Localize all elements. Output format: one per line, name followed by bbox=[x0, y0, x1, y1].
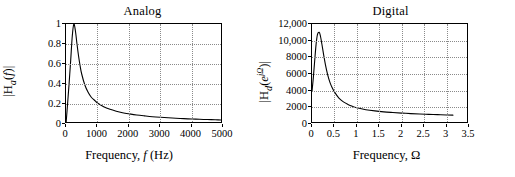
gridline-vertical bbox=[192, 24, 193, 122]
x-tick-label: 0 bbox=[308, 128, 313, 139]
chart-title-digital: Digital bbox=[308, 4, 473, 19]
x-tick-label: 0.5 bbox=[327, 128, 340, 139]
x-axis-title-digital: Frequency, Ω bbox=[258, 148, 515, 163]
y-tick-label: 10,000 bbox=[263, 34, 307, 45]
x-tick-label: 3000 bbox=[149, 128, 170, 139]
y-tick-mark bbox=[308, 90, 311, 91]
y-tick-label: 0.8 bbox=[17, 38, 61, 49]
y-tick-label: 0.4 bbox=[17, 78, 61, 89]
gridline-vertical bbox=[424, 24, 425, 122]
y-tick-mark bbox=[308, 23, 311, 24]
x-tick-mark bbox=[356, 124, 357, 127]
y-axis-title-close-digital: )| bbox=[257, 61, 271, 68]
y-tick-mark bbox=[308, 40, 311, 41]
y-axis-title-sub-digital: d bbox=[263, 86, 274, 91]
x-tick-label: 1000 bbox=[86, 128, 107, 139]
gridline-vertical bbox=[379, 24, 380, 122]
y-tick-mark bbox=[62, 123, 65, 124]
gridline-vertical bbox=[334, 24, 335, 122]
y-tick-mark bbox=[308, 73, 311, 74]
y-axis-title-mid-digital: ( bbox=[257, 82, 271, 86]
curve-analog bbox=[66, 24, 222, 123]
gridline-vertical bbox=[160, 24, 161, 122]
y-axis-title-open-analog: |H bbox=[1, 85, 15, 97]
x-tick-mark bbox=[159, 124, 160, 127]
y-tick-mark bbox=[62, 43, 65, 44]
panel-analog: Analog 01000200030004000500000.20.40.60.… bbox=[0, 0, 258, 177]
gridline-horizontal bbox=[66, 84, 221, 85]
x-tick-mark bbox=[96, 124, 97, 127]
response-curve bbox=[66, 24, 222, 123]
plot-area-analog bbox=[65, 23, 222, 123]
gridline-horizontal bbox=[66, 104, 221, 105]
x-tick-mark bbox=[311, 124, 312, 127]
gridline-vertical bbox=[129, 24, 130, 122]
x-tick-label: 5000 bbox=[212, 128, 233, 139]
x-tick-label: 0 bbox=[62, 128, 67, 139]
x-axis-title-suffix-analog: (Hz) bbox=[147, 148, 173, 162]
y-tick-mark bbox=[62, 23, 65, 24]
y-tick-label: 12,000 bbox=[263, 18, 307, 29]
x-tick-mark bbox=[378, 124, 379, 127]
x-tick-mark bbox=[333, 124, 334, 127]
x-axis-title-prefix-analog: Frequency, bbox=[85, 148, 143, 162]
x-tick-label: 4000 bbox=[180, 128, 201, 139]
gridline-horizontal bbox=[66, 64, 221, 65]
gridline-horizontal bbox=[66, 44, 221, 45]
x-tick-label: 2.5 bbox=[417, 128, 430, 139]
x-tick-mark bbox=[191, 124, 192, 127]
y-tick-mark bbox=[308, 56, 311, 57]
x-tick-mark bbox=[401, 124, 402, 127]
x-axis-title-analog: Frequency, f (Hz) bbox=[0, 148, 258, 163]
x-tick-label: 1.5 bbox=[372, 128, 385, 139]
gridline-vertical bbox=[447, 24, 448, 122]
gridline-vertical bbox=[402, 24, 403, 122]
x-tick-label: 2 bbox=[398, 128, 403, 139]
y-tick-label: 0.6 bbox=[17, 58, 61, 69]
x-tick-label: 3.5 bbox=[461, 128, 474, 139]
x-tick-mark bbox=[128, 124, 129, 127]
chart-title-analog: Analog bbox=[60, 4, 225, 19]
plot-area-digital bbox=[311, 23, 468, 123]
y-tick-mark bbox=[62, 103, 65, 104]
y-axis-title-sub-analog: a bbox=[7, 80, 18, 85]
y-axis-title-close-analog: )| bbox=[1, 66, 15, 73]
x-tick-mark bbox=[446, 124, 447, 127]
y-axis-title-digital: |Hd(ejΩ)| bbox=[256, 61, 274, 102]
y-axis-title-var-digital: e bbox=[257, 76, 271, 82]
y-axis-title-var-analog: f bbox=[1, 72, 15, 75]
y-tick-label: 1 bbox=[17, 18, 61, 29]
x-tick-label: 2000 bbox=[117, 128, 138, 139]
x-tick-mark bbox=[222, 124, 223, 127]
panel-digital: Digital 00.511.522.533.50200040006000800… bbox=[258, 0, 515, 177]
x-axis-title-symbol-digital: Ω bbox=[411, 148, 420, 162]
figure-container: Analog 01000200030004000500000.20.40.60.… bbox=[0, 0, 515, 177]
x-tick-mark bbox=[423, 124, 424, 127]
x-tick-label: 3 bbox=[443, 128, 448, 139]
y-axis-title-exp-digital: jΩ bbox=[256, 68, 265, 76]
y-tick-mark bbox=[62, 83, 65, 84]
x-tick-mark bbox=[65, 124, 66, 127]
y-tick-label: 0.2 bbox=[17, 98, 61, 109]
y-tick-mark bbox=[62, 63, 65, 64]
x-tick-label: 1 bbox=[353, 128, 358, 139]
x-tick-mark bbox=[468, 124, 469, 127]
y-axis-title-open-digital: |H bbox=[257, 91, 271, 103]
y-tick-label: 0 bbox=[17, 118, 61, 129]
y-axis-title-mid-analog: ( bbox=[1, 76, 15, 80]
gridline-vertical bbox=[97, 24, 98, 122]
y-axis-title-analog: |Ha(f)| bbox=[1, 66, 18, 97]
y-tick-mark bbox=[308, 106, 311, 107]
x-axis-title-prefix-digital: Frequency, bbox=[353, 148, 411, 162]
gridline-vertical bbox=[357, 24, 358, 122]
y-tick-label: 0 bbox=[263, 118, 307, 129]
y-tick-mark bbox=[308, 123, 311, 124]
